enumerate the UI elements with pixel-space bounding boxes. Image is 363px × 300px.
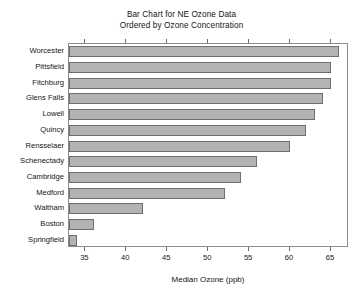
bar — [69, 62, 331, 73]
x-axis-tick-mark — [289, 247, 290, 251]
x-axis-tick-label: 60 — [274, 253, 304, 262]
x-axis-tick-mark — [84, 247, 85, 251]
y-axis-label: Lowell — [0, 109, 64, 118]
bar — [69, 109, 315, 120]
chart-title: Bar Chart for NE Ozone Data Ordered by O… — [0, 10, 363, 31]
x-axis-tick-mark — [125, 247, 126, 251]
bar — [69, 78, 331, 89]
x-axis-tick-mark — [330, 247, 331, 251]
x-axis-tick-label: 35 — [69, 253, 99, 262]
bar-series — [69, 44, 347, 246]
x-axis-tick-mark — [207, 247, 208, 251]
plot-area — [68, 43, 348, 247]
bar — [69, 141, 290, 152]
x-axis-title: Median Ozone (ppb) — [68, 275, 348, 285]
x-axis-tick-mark — [248, 247, 249, 251]
y-axis-label: Rensselaer — [0, 141, 64, 150]
bar — [69, 188, 225, 199]
y-axis-label: Waltham — [0, 203, 64, 212]
bar — [69, 219, 94, 230]
bar — [69, 203, 143, 214]
y-axis-label: Fitchburg — [0, 78, 64, 87]
bar — [69, 93, 323, 104]
bar — [69, 46, 339, 57]
y-axis-category-labels: WorcesterPittsfieldFitchburgGlens FallsL… — [0, 43, 64, 247]
x-axis-tick-label: 55 — [233, 253, 263, 262]
y-axis-label: Worcester — [0, 46, 64, 55]
x-axis-tick-label: 50 — [192, 253, 222, 262]
bar — [69, 156, 257, 167]
y-axis-label: Glens Falls — [0, 93, 64, 102]
x-axis-tick-label: 40 — [110, 253, 140, 262]
bar — [69, 125, 306, 136]
y-axis-label: Boston — [0, 219, 64, 228]
chart-title-line-2: Ordered by Ozone Concentration — [0, 21, 363, 32]
y-axis-label: Pittsfield — [0, 62, 64, 71]
x-axis-tick-mark — [166, 247, 167, 251]
y-axis-label: Cambridge — [0, 172, 64, 181]
y-axis-label: Quincy — [0, 125, 64, 134]
x-axis-tick-label: 65 — [315, 253, 345, 262]
y-axis-label: Medford — [0, 188, 64, 197]
x-axis-ticks: 35404550556065 — [68, 247, 348, 271]
bar — [69, 235, 77, 246]
bar — [69, 172, 241, 183]
chart-figure: Bar Chart for NE Ozone Data Ordered by O… — [0, 0, 363, 300]
y-axis-label: Springfield — [0, 235, 64, 244]
y-axis-label: Schenectady — [0, 156, 64, 165]
x-axis-tick-label: 45 — [151, 253, 181, 262]
chart-title-line-1: Bar Chart for NE Ozone Data — [0, 10, 363, 21]
